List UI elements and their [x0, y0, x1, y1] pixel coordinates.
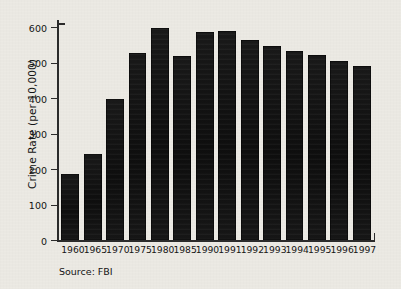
- y-tick-label: 0: [41, 235, 47, 246]
- bar-1995: [308, 55, 326, 240]
- y-tick-label: 100: [29, 200, 47, 211]
- y-tick-label: 600: [29, 22, 47, 33]
- y-tick-label: 200: [29, 164, 47, 175]
- x-tick-label-1965: 1965: [84, 244, 102, 255]
- bar-slot: [173, 20, 191, 240]
- x-tick-label-1994: 1994: [286, 244, 304, 255]
- bar-slot: [84, 20, 102, 240]
- bar-slot: [330, 20, 348, 240]
- x-tick-label-1991: 1991: [218, 244, 236, 255]
- x-tick-label-1975: 1975: [129, 244, 147, 255]
- x-tick-label-1993: 1993: [263, 244, 281, 255]
- y-tick-500: 500: [51, 63, 57, 64]
- x-tick-label-1985: 1985: [173, 244, 191, 255]
- y-tick-600: 600: [51, 27, 57, 28]
- x-axis-right-cap: [374, 233, 376, 241]
- bar-1980: [151, 28, 169, 240]
- x-tick-label-1970: 1970: [106, 244, 124, 255]
- bar-slot: [61, 20, 79, 240]
- bar-slot: [353, 20, 371, 240]
- bar-1993: [263, 46, 281, 240]
- bar-1997: [353, 66, 371, 240]
- y-tick-label: 400: [29, 93, 47, 104]
- x-tick-label-1960: 1960: [61, 244, 79, 255]
- y-tick-200: 200: [51, 169, 57, 170]
- x-tick-label-1995: 1995: [308, 244, 326, 255]
- bar-slot: [308, 20, 326, 240]
- bar-1994: [286, 51, 304, 240]
- x-tick-label-1996: 1996: [330, 244, 348, 255]
- bar-1985: [173, 56, 191, 240]
- bar-slot: [263, 20, 281, 240]
- bar-1996: [330, 61, 348, 240]
- x-tick-label-1990: 1990: [196, 244, 214, 255]
- bar-1992: [241, 40, 259, 240]
- y-tick-100: 100: [51, 205, 57, 206]
- plot-area: 0100200300400500600 19601965197019751980…: [57, 20, 375, 240]
- bar-slot: [218, 20, 236, 240]
- bar-slot: [151, 20, 169, 240]
- y-tick-label: 300: [29, 129, 47, 140]
- bar-1960: [61, 174, 79, 240]
- y-tick-0: 0: [51, 240, 57, 241]
- y-tick-label: 500: [29, 58, 47, 69]
- bar-1991: [218, 31, 236, 240]
- bar-slot: [129, 20, 147, 240]
- bar-series: [59, 20, 373, 240]
- bar-1975: [129, 53, 147, 240]
- y-tick-300: 300: [51, 134, 57, 135]
- bar-1965: [84, 154, 102, 240]
- x-tick-label-1980: 1980: [151, 244, 169, 255]
- bar-1990: [196, 32, 214, 240]
- x-tick-label-1997: 1997: [353, 244, 371, 255]
- source-note: Source: FBI: [59, 266, 113, 277]
- x-axis-line: [57, 240, 375, 242]
- y-tick-400: 400: [51, 98, 57, 99]
- bar-slot: [241, 20, 259, 240]
- bar-slot: [106, 20, 124, 240]
- x-tick-label-1992: 1992: [241, 244, 259, 255]
- bar-slot: [286, 20, 304, 240]
- bar-1970: [106, 99, 124, 240]
- bar-slot: [196, 20, 214, 240]
- crime-rate-bar-chart-figure: Crime Rate (per 10,000) 0100200300400500…: [0, 0, 401, 289]
